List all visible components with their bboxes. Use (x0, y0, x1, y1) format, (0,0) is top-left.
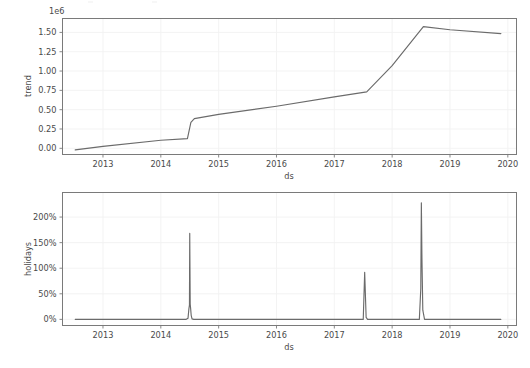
x-tick-label: 2014 (150, 330, 171, 340)
y-tick-label: 200% (33, 212, 57, 222)
x-tick-label: 2013 (93, 330, 114, 340)
y-tick-label: 0.25 (38, 124, 56, 134)
y-tick-label: 0% (44, 314, 57, 324)
x-tick-label: 2019 (440, 330, 461, 340)
holidays-x-axis-label: ds (284, 342, 293, 352)
y-tick-label: 0.00 (38, 143, 56, 153)
prophet-components-figure: 0.000.250.500.751.001.251.50 20132014201… (0, 0, 530, 368)
x-tick-label: 2018 (382, 159, 403, 169)
x-tick-label: 2013 (93, 159, 114, 169)
x-tick-label: 2015 (208, 159, 229, 169)
x-tick-label: 2016 (266, 330, 287, 340)
trend-y-axis-label: trend (23, 75, 33, 97)
y-tick-label: 150% (33, 238, 57, 248)
x-tick-label: 2020 (497, 159, 518, 169)
y-tick-label: 1.25 (38, 47, 56, 57)
figure-background (0, 0, 530, 368)
y-tick-label: 1.00 (38, 66, 56, 76)
x-tick-label: 2014 (150, 159, 171, 169)
y-tick-label: 0.50 (38, 105, 56, 115)
y-tick-label: 100% (33, 263, 57, 273)
x-tick-label: 2020 (497, 330, 518, 340)
x-tick-label: 2015 (208, 330, 229, 340)
x-tick-label: 2016 (266, 159, 287, 169)
y-tick-label: 0.75 (38, 85, 56, 95)
y-tick-label: 50% (38, 289, 56, 299)
x-tick-label: 2018 (382, 330, 403, 340)
x-tick-label: 2017 (324, 159, 345, 169)
figure-canvas: 0.000.250.500.751.001.251.50 20132014201… (0, 0, 530, 368)
trend-x-axis-label: ds (284, 171, 293, 181)
y-tick-label: 1.50 (38, 27, 56, 37)
holidays-y-axis-label: holidays (23, 242, 33, 276)
trend-y-offset-label: 1e6 (49, 6, 64, 16)
x-tick-label: 2019 (440, 159, 461, 169)
x-tick-label: 2017 (324, 330, 345, 340)
